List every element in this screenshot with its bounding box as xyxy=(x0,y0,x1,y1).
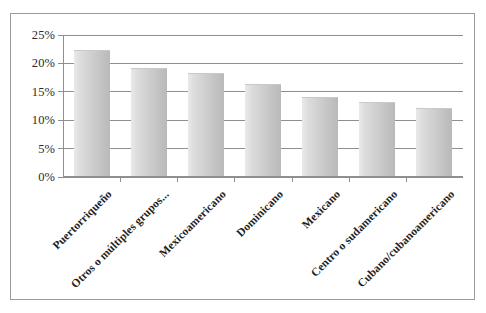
x-axis-category-label: Cubano/cubanoamericano xyxy=(136,188,457,313)
chart-root: 0%5%10%15%20%25% PuertorriqueñoOtros o m… xyxy=(0,0,486,313)
y-axis-tick-mark xyxy=(58,148,63,149)
y-axis-tick-mark xyxy=(58,63,63,64)
x-axis-category-label: Centro o sudamericano xyxy=(119,188,399,313)
bar xyxy=(74,50,110,176)
y-axis-line xyxy=(63,35,64,177)
chart-frame: 0%5%10%15%20%25% PuertorriqueñoOtros o m… xyxy=(10,13,475,300)
bar xyxy=(416,108,452,176)
y-axis-tick-label: 25% xyxy=(32,28,55,43)
bar xyxy=(359,102,395,176)
y-axis-tick-label: 20% xyxy=(32,56,55,71)
x-axis-category-label: Otros o múltiples grupos... xyxy=(52,188,171,307)
x-axis-tick-mark xyxy=(406,177,407,182)
y-axis-tick-mark xyxy=(58,35,63,36)
y-axis-tick-mark xyxy=(58,91,63,92)
y-axis-tick-label: 10% xyxy=(32,113,55,128)
y-axis-tick-mark xyxy=(58,177,63,178)
gridline xyxy=(63,63,463,64)
plot-area: 0%5%10%15%20%25% xyxy=(63,35,463,177)
y-axis-tick-label: 0% xyxy=(38,170,55,185)
x-axis-category-label: Dominicano xyxy=(86,188,285,313)
x-axis-category-label: Puertorriqueño xyxy=(36,188,114,266)
bar xyxy=(131,68,167,176)
y-axis-tick-label: 5% xyxy=(38,141,55,156)
x-axis-category-label: Mexicoamericano xyxy=(69,188,228,313)
x-axis-tick-mark xyxy=(349,177,350,182)
gridline xyxy=(63,177,463,178)
y-axis-tick-label: 15% xyxy=(32,84,55,99)
x-axis-tick-mark xyxy=(177,177,178,182)
bar xyxy=(188,73,224,176)
x-axis-tick-mark xyxy=(120,177,121,182)
x-axis-category-label: Mexicano xyxy=(103,188,343,313)
x-axis-tick-mark xyxy=(234,177,235,182)
bar xyxy=(245,84,281,176)
bar xyxy=(302,97,338,176)
y-axis-tick-mark xyxy=(58,120,63,121)
gridline xyxy=(63,35,463,36)
x-axis-tick-mark xyxy=(292,177,293,182)
